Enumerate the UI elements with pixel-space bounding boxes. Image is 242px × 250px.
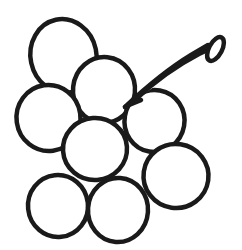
artwork-canvas: [0, 0, 242, 250]
berry-center: [61, 116, 129, 182]
grape-bunch-illustration: [0, 0, 242, 250]
berry-bottom-center: [86, 176, 150, 244]
